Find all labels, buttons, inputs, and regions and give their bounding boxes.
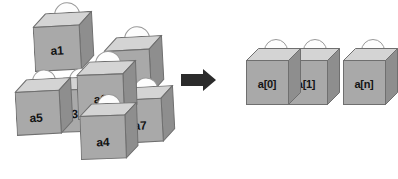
cube-shape — [14, 77, 75, 137]
transform-arrow-icon — [181, 68, 217, 92]
cube-shape — [79, 102, 140, 161]
cube-shape — [343, 48, 398, 106]
diagram-canvas: a1a2a3a4a5a6a7 a[0]a[1]a[n] ··· — [0, 0, 398, 179]
cube-shape — [246, 48, 302, 106]
